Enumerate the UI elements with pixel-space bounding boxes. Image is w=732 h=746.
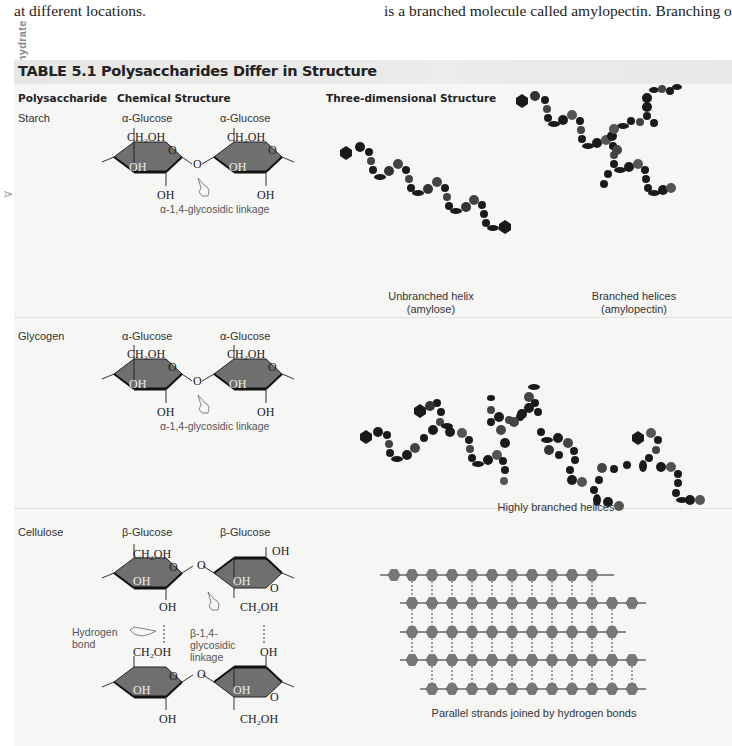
body-text-left: at different locations.: [14, 2, 146, 20]
cellulose-parallel-strands: [14, 60, 732, 746]
polysaccharide-table: TABLE 5.1 Polysaccharides Differ in Stru…: [14, 60, 732, 746]
body-text-right: is a branched molecule called amylopecti…: [384, 2, 732, 20]
caption-cellulose: Parallel strands joined by hydrogen bond…: [414, 707, 654, 720]
margin-arrow-icon: ⋗: [3, 187, 13, 201]
